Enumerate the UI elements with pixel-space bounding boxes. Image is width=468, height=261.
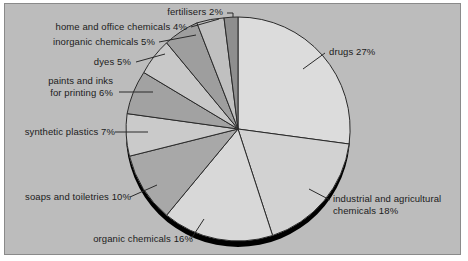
pie-label-inorganic-chemicals: inorganic chemicals 5% — [31, 36, 155, 48]
pie-label-fertilisers: fertilisers 2% — [95, 6, 223, 18]
pie-slice-drugs[interactable] — [238, 17, 350, 144]
screenshot-root: fertilisers 2% home and office chemicals… — [0, 0, 468, 261]
pie-label-paints-line2: for printing 6% — [50, 87, 113, 98]
pie-label-dyes: dyes 5% — [83, 56, 131, 68]
pie-label-organic-chemicals: organic chemicals 16% — [69, 233, 193, 245]
pie-label-home-and-office-chemicals: home and office chemicals 4% — [21, 21, 187, 33]
pie-label-synthetic-plastics: synthetic plastics 7% — [11, 126, 115, 138]
pie-label-drugs: drugs 27% — [329, 46, 409, 58]
pie-label-soaps-and-toiletries: soaps and toiletries 10% — [11, 191, 131, 203]
leader-line-fertilisers — [227, 13, 233, 17]
pie-label-industrial-line1: industrial and agricultural — [333, 193, 441, 204]
pie-label-paints-line1: paints and inks — [48, 75, 113, 86]
pie-slices — [126, 17, 350, 241]
pie-label-industrial-line2: chemicals 18% — [333, 205, 398, 216]
pie-chart-panel: fertilisers 2% home and office chemicals… — [4, 3, 461, 255]
